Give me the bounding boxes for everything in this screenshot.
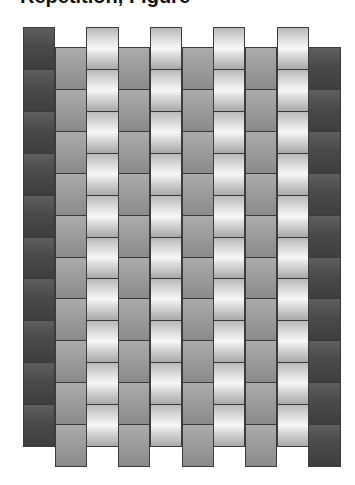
weave-segment bbox=[24, 154, 54, 196]
weave-segment bbox=[214, 154, 244, 196]
weave-segment bbox=[87, 405, 117, 446]
weave-segment bbox=[151, 196, 181, 238]
weave-segment bbox=[87, 70, 117, 112]
weave-segment bbox=[56, 132, 86, 174]
weave-segment bbox=[151, 405, 181, 446]
weave-segment bbox=[214, 321, 244, 363]
weave-segment bbox=[56, 216, 86, 258]
weave-segment bbox=[24, 405, 54, 446]
weave-segment bbox=[278, 405, 308, 446]
weave-segment bbox=[56, 383, 86, 425]
weave-segment bbox=[246, 48, 276, 90]
weave-segment bbox=[309, 216, 339, 258]
weave-segment bbox=[309, 90, 339, 132]
weave-segment bbox=[183, 425, 213, 466]
weave-segment bbox=[214, 405, 244, 446]
weave-segment bbox=[87, 154, 117, 196]
weave-segment bbox=[151, 70, 181, 112]
weave-segment bbox=[214, 70, 244, 112]
weave-segment bbox=[183, 174, 213, 216]
weave-segment bbox=[24, 196, 54, 238]
weave-pattern-diagram bbox=[0, 0, 355, 485]
weave-segment bbox=[309, 341, 339, 383]
weave-segment bbox=[56, 258, 86, 300]
weave-segment bbox=[214, 28, 244, 70]
weave-column-9-light bbox=[277, 27, 309, 447]
weave-segment bbox=[24, 70, 54, 112]
weave-segment bbox=[87, 196, 117, 238]
weave-column-10-dark bbox=[308, 47, 340, 467]
weave-column-6-medium bbox=[182, 47, 214, 467]
weave-segment bbox=[151, 238, 181, 280]
weave-segment bbox=[119, 132, 149, 174]
weave-segment bbox=[24, 112, 54, 154]
weave-segment bbox=[24, 363, 54, 405]
weave-segment bbox=[183, 216, 213, 258]
weave-segment bbox=[309, 174, 339, 216]
weave-segment bbox=[183, 299, 213, 341]
weave-segment bbox=[309, 299, 339, 341]
weave-segment bbox=[246, 90, 276, 132]
weave-segment bbox=[24, 238, 54, 280]
weave-segment bbox=[214, 279, 244, 321]
weave-segment bbox=[119, 341, 149, 383]
weave-segment bbox=[56, 341, 86, 383]
weave-segment bbox=[183, 341, 213, 383]
weave-segment bbox=[309, 425, 339, 466]
weave-column-3-light bbox=[86, 27, 118, 447]
weave-segment bbox=[56, 48, 86, 90]
weave-segment bbox=[151, 363, 181, 405]
weave-segment bbox=[56, 90, 86, 132]
weave-segment bbox=[24, 28, 54, 70]
weave-segment bbox=[183, 90, 213, 132]
weave-segment bbox=[87, 238, 117, 280]
weave-segment bbox=[56, 425, 86, 466]
weave-segment bbox=[278, 196, 308, 238]
weave-segment bbox=[278, 154, 308, 196]
weave-segment bbox=[309, 132, 339, 174]
weave-segment bbox=[246, 216, 276, 258]
weave-segment bbox=[309, 48, 339, 90]
weave-segment bbox=[119, 90, 149, 132]
weave-segment bbox=[278, 238, 308, 280]
weave-segment bbox=[87, 321, 117, 363]
weave-segment bbox=[87, 363, 117, 405]
weave-segment bbox=[151, 112, 181, 154]
weave-column-4-medium bbox=[118, 47, 150, 467]
weave-segment bbox=[151, 321, 181, 363]
weave-segment bbox=[183, 383, 213, 425]
weave-segment bbox=[246, 425, 276, 466]
weave-segment bbox=[214, 363, 244, 405]
weave-segment bbox=[119, 425, 149, 466]
weave-segment bbox=[119, 383, 149, 425]
weave-segment bbox=[24, 321, 54, 363]
weave-segment bbox=[151, 28, 181, 70]
weave-column-1-dark bbox=[23, 27, 55, 447]
weave-column-8-medium bbox=[245, 47, 277, 467]
weave-segment bbox=[183, 132, 213, 174]
weave-segment bbox=[246, 132, 276, 174]
weave-segment bbox=[246, 258, 276, 300]
weave-segment bbox=[278, 112, 308, 154]
weave-segment bbox=[183, 258, 213, 300]
weave-column-2-medium bbox=[55, 47, 87, 467]
weave-segment bbox=[56, 299, 86, 341]
weave-segment bbox=[309, 383, 339, 425]
weave-segment bbox=[214, 196, 244, 238]
weave-column-7-light bbox=[213, 27, 245, 447]
weave-segment bbox=[278, 279, 308, 321]
weave-segment bbox=[246, 299, 276, 341]
weave-segment bbox=[119, 48, 149, 90]
weave-segment bbox=[278, 70, 308, 112]
weave-segment bbox=[246, 174, 276, 216]
weave-segment bbox=[87, 28, 117, 70]
weave-segment bbox=[278, 363, 308, 405]
weave-segment bbox=[119, 216, 149, 258]
weave-segment bbox=[246, 383, 276, 425]
weave-segment bbox=[24, 279, 54, 321]
weave-segment bbox=[183, 48, 213, 90]
weave-column-5-light bbox=[150, 27, 182, 447]
weave-segment bbox=[278, 28, 308, 70]
weave-segment bbox=[246, 341, 276, 383]
weave-segment bbox=[214, 238, 244, 280]
